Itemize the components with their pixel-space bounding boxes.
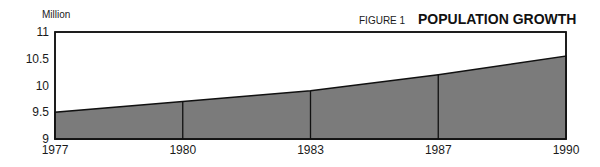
chart-title: POPULATION GROWTH: [418, 11, 576, 27]
x-tick-label: 1977: [42, 143, 69, 157]
x-axis-ticks: 19771980198319871990: [42, 143, 580, 157]
y-tick-label: 9.5: [32, 105, 49, 119]
x-tick-label: 1987: [425, 143, 452, 157]
figure-label: FIGURE 1: [359, 15, 406, 26]
y-tick-label: 11: [37, 25, 50, 39]
y-axis-ticks: 99.51010.511: [26, 25, 50, 146]
y-tick-label: 10.5: [26, 52, 50, 66]
y-tick-label: 10: [36, 79, 50, 93]
population-growth-chart: Million FIGURE 1 POPULATION GROWTH 99.51…: [0, 0, 600, 167]
x-tick-label: 1983: [297, 143, 324, 157]
y-axis-unit-label: Million: [42, 9, 70, 20]
x-tick-label: 1990: [553, 143, 580, 157]
x-tick-label: 1980: [169, 143, 196, 157]
